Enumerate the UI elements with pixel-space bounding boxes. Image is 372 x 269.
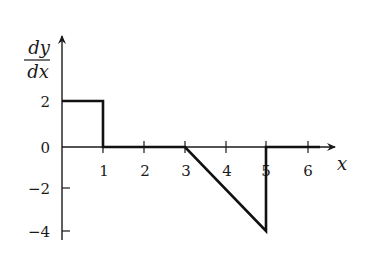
x-tick-label-2: 2 — [140, 162, 150, 180]
y-tick-label-neg2: −2 — [28, 180, 50, 198]
x-tick-label-4: 4 — [222, 162, 232, 180]
y-ticks — [62, 188, 70, 231]
x-tick-label-6: 6 — [303, 162, 313, 180]
y-tick-label-0: 0 — [40, 139, 50, 157]
y-tick-label-neg4: −4 — [28, 223, 50, 241]
x-axis-label: x — [337, 153, 347, 174]
y-axis-label-numerator: dy — [28, 37, 51, 58]
y-axis-label-denominator: dx — [27, 61, 49, 82]
x-tick-label-1: 1 — [99, 162, 109, 180]
derivative-chart: 2 0 −2 −4 1 2 3 4 5 6 x dy dx — [0, 0, 372, 269]
y-tick-label-2: 2 — [40, 93, 50, 111]
x-tick-label-5: 5 — [261, 162, 271, 180]
x-tick-label-3: 3 — [181, 162, 191, 180]
